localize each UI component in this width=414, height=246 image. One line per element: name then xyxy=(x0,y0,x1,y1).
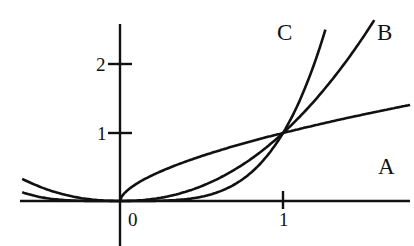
y-tick-label-1: 1 xyxy=(97,123,107,144)
curve-label-c: C xyxy=(277,20,292,45)
curve-b xyxy=(22,20,374,201)
axes xyxy=(20,24,410,246)
function-plot: 2 1 0 1 C B A xyxy=(0,0,414,246)
y-tick-label-2: 2 xyxy=(96,54,106,75)
curve-labels: C B A xyxy=(277,20,395,179)
origin-label: 0 xyxy=(128,209,138,230)
x-tick-label-1: 1 xyxy=(279,209,289,230)
tick-labels: 2 1 0 1 xyxy=(96,54,289,230)
curve-label-a: A xyxy=(378,154,395,179)
curve-a xyxy=(120,105,410,201)
curves xyxy=(22,20,410,201)
curve-c xyxy=(22,30,325,201)
curve-label-b: B xyxy=(377,20,392,45)
